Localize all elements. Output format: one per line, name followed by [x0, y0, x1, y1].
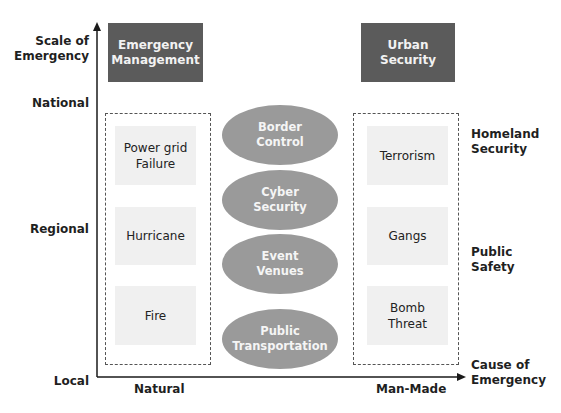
ellipse-event-venues: Event Venues — [222, 234, 338, 294]
item-gangs: Gangs — [367, 207, 448, 265]
item-fire: Fire — [115, 286, 196, 345]
ellipse-cyber-security: Cyber Security — [222, 170, 338, 230]
emergency-management-box: Emergency Management — [108, 23, 203, 82]
urban-security-box: Urban Security — [361, 23, 455, 82]
y-tick-national: National — [0, 96, 89, 111]
ellipse-border-control: Border Control — [222, 105, 338, 165]
label-public-safety: Public Safety — [471, 245, 515, 275]
y-tick-local: Local — [0, 374, 89, 389]
label-homeland-security: Homeland Security — [471, 127, 539, 157]
item-power-grid-failure: Power grid Failure — [115, 126, 196, 185]
y-axis-title: Scale of Emergency — [0, 34, 89, 64]
x-tick-natural: Natural — [134, 382, 185, 397]
y-axis-arrow-icon — [93, 22, 101, 31]
y-tick-regional: Regional — [0, 222, 89, 237]
x-axis-title: Cause of Emergency — [471, 358, 546, 388]
ellipse-public-transportation: Public Transportation — [222, 309, 338, 369]
x-tick-man-made: Man-Made — [376, 382, 446, 397]
item-hurricane: Hurricane — [115, 207, 196, 265]
item-terrorism: Terrorism — [367, 126, 448, 185]
item-bomb-threat: Bomb Threat — [367, 286, 448, 345]
x-axis-arrow-icon — [457, 373, 466, 381]
